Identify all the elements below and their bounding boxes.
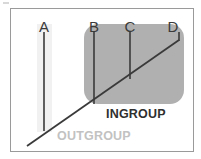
ingroup-region-box	[84, 24, 184, 104]
outgroup-annotation-label: OUTGROUP	[57, 130, 131, 143]
axis-label-c: C	[122, 19, 138, 34]
axis-label-a: A	[36, 19, 52, 34]
axis-label-d: D	[165, 19, 181, 34]
axis-label-b: B	[86, 19, 102, 34]
scan-artifact-speck	[3, 2, 9, 4]
figure-container: A B C D INGROUP OUTGROUP	[0, 0, 201, 159]
ingroup-annotation-label: INGROUP	[106, 108, 166, 121]
